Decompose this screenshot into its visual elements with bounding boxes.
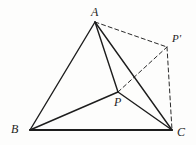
figure-canvas — [0, 0, 196, 145]
vertex-label-a: A — [91, 6, 98, 18]
segment-a-p — [95, 22, 118, 92]
segment-b-p — [30, 92, 118, 130]
geometry-figure: A B C P P' — [0, 0, 196, 145]
point-label-p-prime: P' — [172, 33, 181, 44]
vertex-label-b: B — [11, 123, 18, 135]
solid-lines-group — [30, 22, 172, 130]
segment-a-pprime — [95, 22, 167, 47]
point-label-p: P — [114, 96, 121, 108]
segment-pprime-c — [167, 47, 172, 130]
segment-p-pprime — [118, 47, 167, 92]
segment-a-c — [95, 22, 172, 130]
segment-p-c — [118, 92, 172, 130]
segment-a-b — [30, 22, 95, 130]
vertex-label-c: C — [177, 126, 185, 138]
